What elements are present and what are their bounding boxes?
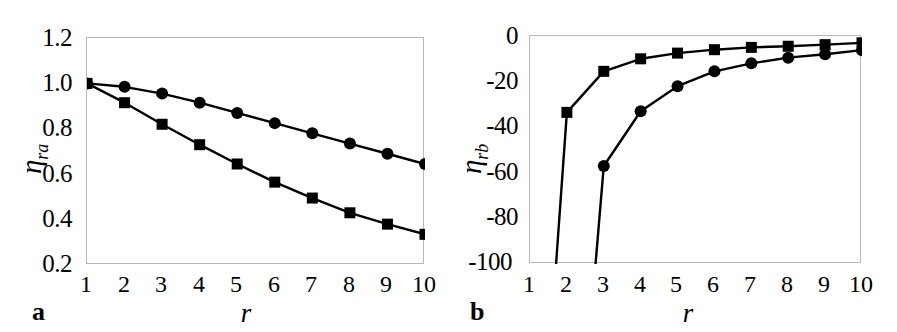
yaxis-title-b-subscript: rb bbox=[472, 144, 492, 160]
ytick-a-0: 1.2 bbox=[8, 25, 72, 50]
yaxis-title-a-symbol: η bbox=[15, 160, 47, 174]
xaxis-title-b: r bbox=[668, 298, 708, 329]
xtick-a-5: 5 bbox=[219, 272, 253, 296]
xtick-b-5: 5 bbox=[659, 272, 693, 296]
xtick-b-3: 3 bbox=[586, 272, 620, 296]
ytick-b-5: -100 bbox=[440, 249, 512, 274]
xtick-b-4: 4 bbox=[623, 272, 657, 296]
ytick-a-5: 0.2 bbox=[8, 251, 72, 276]
ytick-b-4: -80 bbox=[446, 204, 518, 229]
panel-tag-b: b bbox=[470, 297, 484, 327]
panel-a: 1.2 1.0 0.8 0.6 0.4 0.2 ηra 1 2 3 4 5 6 … bbox=[0, 0, 449, 332]
yaxis-title-b: ηrb bbox=[455, 119, 493, 199]
xtick-a-1: 1 bbox=[69, 272, 103, 296]
yaxis-title-a-subscript: ra bbox=[32, 144, 52, 160]
plot-area-a bbox=[86, 37, 424, 264]
plot-lines-a bbox=[87, 38, 425, 265]
xtick-a-2: 2 bbox=[107, 272, 141, 296]
panel-tag-a: a bbox=[32, 297, 45, 327]
xtick-b-10: 10 bbox=[844, 272, 878, 296]
panel-b: 0 -20 -40 -60 -80 -100 ηrb 1 2 3 4 5 6 7… bbox=[448, 0, 897, 332]
xtick-a-9: 9 bbox=[369, 272, 403, 296]
xtick-b-2: 2 bbox=[549, 272, 583, 296]
xtick-b-8: 8 bbox=[770, 272, 804, 296]
xtick-a-7: 7 bbox=[294, 272, 328, 296]
xtick-a-4: 4 bbox=[182, 272, 216, 296]
xtick-a-10: 10 bbox=[407, 272, 441, 296]
figure-container: 1.2 1.0 0.8 0.6 0.4 0.2 ηra 1 2 3 4 5 6 … bbox=[0, 0, 897, 332]
xtick-a-8: 8 bbox=[332, 272, 366, 296]
ytick-a-4: 0.4 bbox=[8, 206, 72, 231]
yaxis-title-a: ηra bbox=[15, 119, 53, 199]
xtick-b-9: 9 bbox=[807, 272, 841, 296]
plot-lines-b bbox=[530, 36, 862, 264]
xtick-b-1: 1 bbox=[512, 272, 546, 296]
ytick-b-0: 0 bbox=[446, 23, 518, 48]
ytick-b-1: -20 bbox=[446, 68, 518, 93]
plot-area-b bbox=[529, 35, 861, 263]
xtick-b-7: 7 bbox=[733, 272, 767, 296]
ytick-a-1: 1.0 bbox=[8, 70, 72, 95]
xaxis-title-a: r bbox=[226, 298, 266, 329]
yaxis-title-b-symbol: η bbox=[455, 160, 487, 174]
xtick-a-6: 6 bbox=[257, 272, 291, 296]
xtick-a-3: 3 bbox=[144, 272, 178, 296]
xtick-b-6: 6 bbox=[696, 272, 730, 296]
